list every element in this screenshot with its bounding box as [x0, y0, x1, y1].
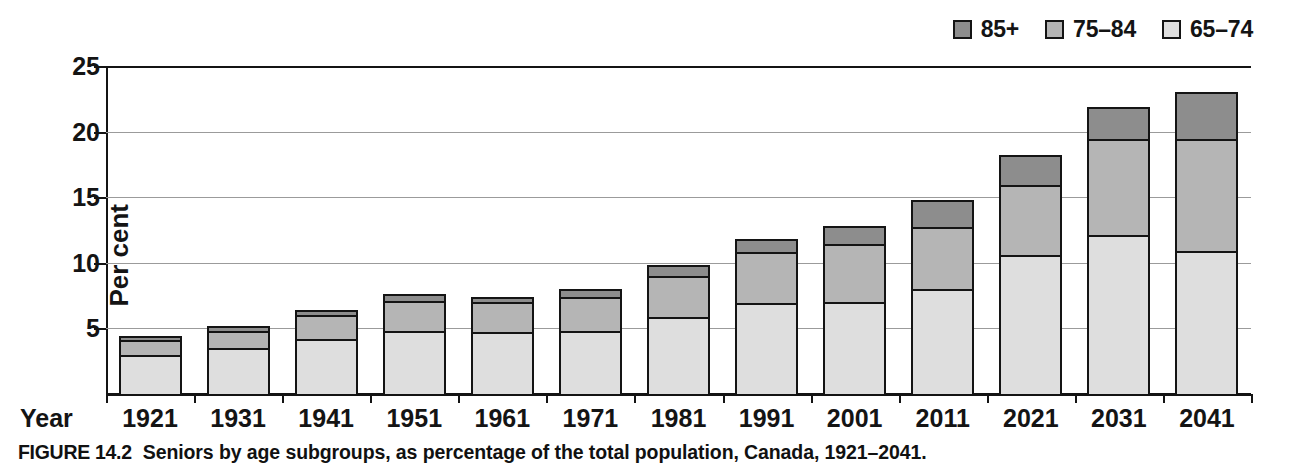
bar-1961: [471, 297, 534, 394]
bar-segment-2001-65–74: [823, 302, 886, 394]
bar-segment-2011-65–74: [911, 289, 974, 394]
x-axis-label-1971: 1971: [546, 404, 634, 433]
bar-segment-1961-75–84: [471, 302, 534, 332]
y-tick-label-25: 25: [72, 52, 100, 81]
legend-label-75-84: 75–84: [1073, 18, 1136, 41]
bar-segment-2001-75–84: [823, 244, 886, 302]
x-axis-label-1951: 1951: [370, 404, 458, 433]
bar-1951: [383, 294, 446, 394]
legend-label-65-74: 65–74: [1190, 18, 1253, 41]
bar-segment-1971-65–74: [559, 331, 622, 394]
bar-segment-2041-75–84: [1175, 139, 1238, 251]
y-tick-label-5: 5: [86, 314, 100, 343]
legend-swatch-65-74: [1162, 20, 1181, 39]
y-tick-label-10: 10: [72, 248, 100, 277]
x-tick-6: [634, 394, 636, 403]
bar-segment-1961-65–74: [471, 332, 534, 394]
x-axis-label-2021: 2021: [987, 404, 1075, 433]
legend-label-85plus: 85+: [981, 18, 1019, 41]
bar-segment-2031-75–84: [1087, 139, 1150, 235]
bar-segment-2001-85+: [823, 226, 886, 244]
y-tick-label-15: 15: [72, 183, 100, 212]
bar-segment-1991-85+: [735, 239, 798, 252]
x-tick-9: [899, 394, 901, 403]
figure-caption: FIGURE 14.2Seniors by age subgroups, as …: [18, 441, 1278, 464]
bar-segment-1921-75–84: [119, 340, 182, 354]
x-tick-0: [106, 394, 108, 403]
x-axis-label-2031: 2031: [1075, 404, 1163, 433]
bar-segment-1951-75–84: [383, 301, 446, 331]
bar-1921: [119, 336, 182, 394]
bar-segment-2031-85+: [1087, 107, 1150, 140]
bar-segment-1931-75–84: [207, 331, 270, 348]
x-tick-5: [546, 394, 548, 403]
bar-segment-1941-75–84: [295, 315, 358, 339]
x-axis-ticks: [106, 394, 1251, 404]
bar-segment-1981-65–74: [647, 317, 710, 394]
bar-2041: [1175, 92, 1238, 394]
bar-1931: [207, 326, 270, 394]
plot-area: Per cent 510152025: [106, 66, 1251, 394]
x-axis-label-1921: 1921: [106, 404, 194, 433]
x-axis-label-1961: 1961: [458, 404, 546, 433]
bar-1941: [295, 310, 358, 394]
bar-segment-1981-75–84: [647, 276, 710, 317]
x-tick-4: [458, 394, 460, 403]
bar-2001: [823, 226, 886, 394]
bar-segment-1951-65–74: [383, 331, 446, 394]
bar-1971: [559, 289, 622, 394]
legend-entry-65-74: 65–74: [1162, 18, 1253, 41]
x-axis-label-1941: 1941: [282, 404, 370, 433]
bar-segment-1941-65–74: [295, 339, 358, 394]
legend-swatch-85plus: [953, 20, 972, 39]
bar-segment-1991-65–74: [735, 303, 798, 394]
x-axis-label-1931: 1931: [194, 404, 282, 433]
x-axis-label-2041: 2041: [1163, 404, 1251, 433]
bar-segment-2021-75–84: [999, 185, 1062, 255]
bar-segment-2011-75–84: [911, 227, 974, 289]
legend-entry-85plus: 85+: [953, 18, 1019, 41]
bar-2021: [999, 155, 1062, 394]
x-tick-2: [282, 394, 284, 403]
y-tick-label-20: 20: [72, 117, 100, 146]
x-tick-7: [723, 394, 725, 403]
bar-segment-1981-85+: [647, 265, 710, 275]
bars-group: [106, 66, 1251, 394]
x-tick-12: [1163, 394, 1165, 403]
x-axis-label-2011: 2011: [899, 404, 987, 433]
bar-segment-2021-65–74: [999, 255, 1062, 394]
bar-segment-2011-85+: [911, 200, 974, 228]
bar-segment-1931-65–74: [207, 348, 270, 394]
x-tick-end: [1251, 394, 1253, 403]
x-tick-11: [1075, 394, 1077, 403]
figure-container: 85+ 75–84 65–74 Per cent 510152025 Year …: [0, 0, 1289, 468]
chart-legend: 85+ 75–84 65–74: [953, 18, 1253, 41]
bar-segment-1921-65–74: [119, 355, 182, 394]
x-axis-label-1981: 1981: [634, 404, 722, 433]
figure-caption-text: Seniors by age subgroups, as percentage …: [143, 441, 927, 463]
figure-caption-number: FIGURE 14.2: [18, 441, 132, 463]
bar-segment-2031-65–74: [1087, 235, 1150, 394]
bar-segment-1971-85+: [559, 289, 622, 297]
bar-2031: [1087, 107, 1150, 394]
bar-segment-2041-65–74: [1175, 251, 1238, 394]
bar-segment-2021-85+: [999, 155, 1062, 185]
x-axis-label-1991: 1991: [723, 404, 811, 433]
x-tick-3: [370, 394, 372, 403]
legend-entry-75-84: 75–84: [1045, 18, 1136, 41]
legend-swatch-75-84: [1045, 20, 1064, 39]
bar-2011: [911, 200, 974, 394]
x-tick-10: [987, 394, 989, 403]
bar-1981: [647, 265, 710, 394]
x-axis-labels: 1921193119411951196119711981199120012011…: [0, 404, 1289, 438]
x-tick-8: [811, 394, 813, 403]
bar-segment-1991-75–84: [735, 252, 798, 303]
bar-segment-2041-85+: [1175, 92, 1238, 139]
bar-1991: [735, 239, 798, 394]
bar-segment-1971-75–84: [559, 297, 622, 331]
x-axis-label-2001: 2001: [811, 404, 899, 433]
x-tick-1: [194, 394, 196, 403]
